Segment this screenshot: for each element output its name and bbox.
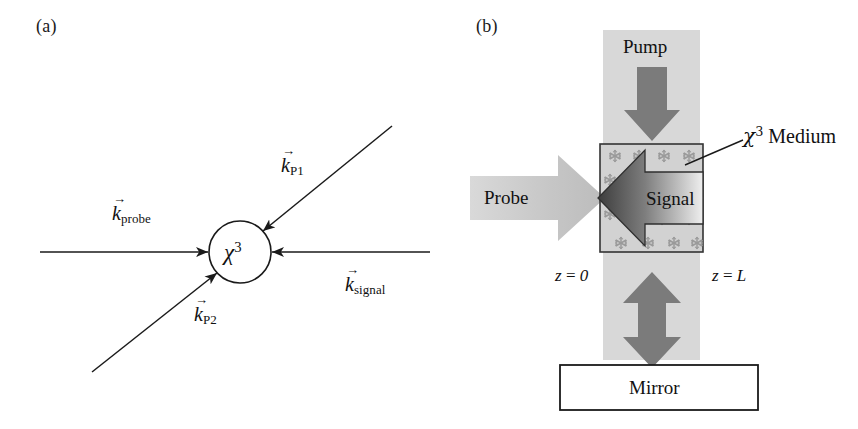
figure-root: (a) χ3 → kprobe: [0, 0, 858, 429]
chi3-symbol: χ3: [224, 240, 241, 264]
k-p1-subscript: P1: [290, 163, 304, 178]
k-signal-label: → ksignal: [345, 267, 386, 296]
mirror-label: Mirror: [629, 378, 680, 397]
signal-label: Signal: [646, 189, 695, 208]
chi3-medium-label: χ3 Medium: [743, 126, 836, 146]
k-p2-symbol: k: [194, 303, 203, 325]
k-p1-symbol: k: [281, 154, 290, 176]
probe-label: Probe: [484, 188, 528, 207]
pump-label: Pump: [623, 37, 667, 56]
k-p1-label: → kP1: [281, 148, 304, 177]
z-origin-label: z = 0: [555, 267, 588, 284]
panel-a-diagram: [0, 0, 440, 429]
k-probe-symbol: k: [112, 202, 121, 224]
k-probe-subscript: probe: [121, 211, 151, 226]
k-probe-label: → kprobe: [112, 196, 151, 225]
k-signal-subscript: signal: [354, 282, 386, 297]
k-p2-label: → kP2: [194, 297, 217, 326]
beam-line-p1: [263, 126, 392, 231]
k-signal-symbol: k: [345, 273, 354, 295]
z-length-label: z = L: [712, 267, 746, 284]
panel-a: (a) χ3 → kprobe: [0, 0, 440, 429]
k-p2-subscript: P2: [203, 312, 217, 327]
panel-b-diagram: [440, 0, 858, 429]
panel-b: (b): [440, 0, 858, 429]
